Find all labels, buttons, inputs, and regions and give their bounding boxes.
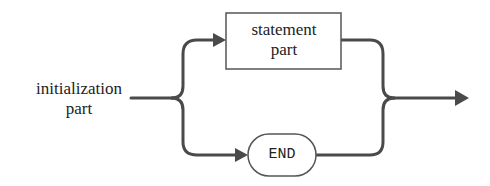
statement-line1: statement [226,20,342,40]
initialization-line2: part [22,99,136,119]
end-label: END [248,145,316,165]
initialization-line1: initialization [22,79,136,99]
statement-line2: part [226,40,342,60]
end-to-merge [316,98,394,155]
arrow-into-end-icon [235,148,248,162]
statement-to-merge [341,40,394,98]
initialization-part-label: initialization part [22,79,136,119]
branch-to-statement [172,40,214,98]
branch-to-end [172,98,236,155]
statement-part-label: statement part [226,20,342,60]
arrow-exit-icon [455,90,469,106]
arrow-into-statement-icon [213,33,226,47]
